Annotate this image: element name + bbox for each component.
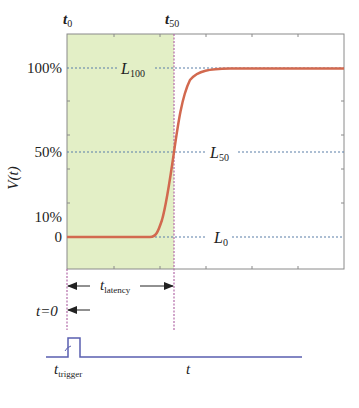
y-tick-50: 50% [35, 144, 63, 160]
trigger-label: ttrigger [54, 361, 82, 379]
y-axis-label: V(t) [5, 166, 22, 189]
latency-diagram: t0 t50 100% 50% 10% 0 V(t) L100 L50 L0 t… [0, 0, 359, 408]
trigger-pulse [46, 338, 302, 357]
t-zero-label: t=0 [36, 303, 58, 319]
t0-label: t0 [63, 11, 72, 29]
y-tick-100: 100% [27, 60, 62, 76]
t50-label: t50 [165, 11, 179, 29]
time-axis-label: t [186, 361, 191, 377]
L0-label: L0 [213, 229, 228, 248]
y-tick-0: 0 [55, 229, 63, 245]
L50-label: L50 [209, 144, 229, 163]
y-tick-10: 10% [35, 209, 63, 225]
latency-label: tlatency [100, 277, 131, 295]
